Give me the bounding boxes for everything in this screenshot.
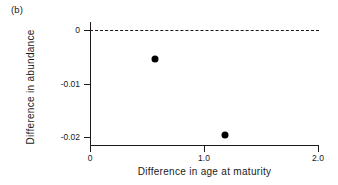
y-tick-label: -0.01 [61, 79, 80, 89]
y-tick-mark [84, 84, 90, 85]
y-axis-title: Difference in abundance [25, 35, 36, 145]
y-tick-label: -0.02 [61, 132, 80, 142]
figure-panel: (b) 0-0.01-0.02 01.02.0 Difference in ag… [0, 0, 338, 185]
y-tick-mark [84, 137, 90, 138]
x-tick-mark [204, 146, 205, 152]
x-tick-mark [90, 146, 91, 152]
x-tick-label: 2.0 [312, 153, 324, 163]
x-tick-mark [318, 146, 319, 152]
y-axis-line [90, 22, 91, 146]
x-axis-title: Difference in age at maturity [90, 166, 319, 177]
x-tick-label: 0 [88, 153, 93, 163]
y-tick-label: 0 [75, 25, 80, 35]
scatter-point [221, 131, 228, 138]
panel-label: (b) [11, 4, 23, 15]
scatter-point [151, 56, 158, 63]
zero-reference-line [90, 30, 319, 31]
x-tick-label: 1.0 [198, 153, 210, 163]
